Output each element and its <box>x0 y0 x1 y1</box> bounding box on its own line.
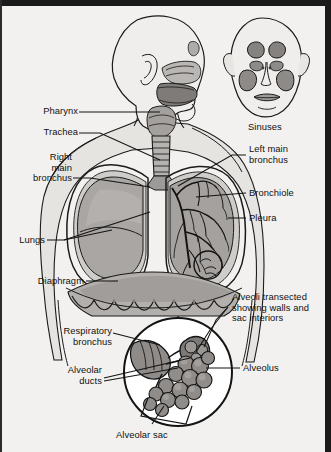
label-left-main-bronchus-line2: bronchus <box>249 155 329 166</box>
label-pharynx: Pharynx <box>0 106 78 117</box>
label-alveoli-transected: Alveoli transected showing walls and sac… <box>232 292 330 324</box>
label-left-main-bronchus-line1: Left main <box>249 144 329 155</box>
label-pleura: Pleura <box>249 213 309 224</box>
right-lung-group <box>78 177 143 279</box>
label-respiratory-bronchus: Respiratory bronchus <box>34 326 112 347</box>
frontal-head-group <box>223 18 309 117</box>
label-alveolar-ducts: Alveolar ducts <box>30 365 102 386</box>
label-right-main-bronchus-line3: bronchus <box>0 173 72 184</box>
frontal-sinus-profile <box>188 41 199 55</box>
profile-head-group <box>112 16 204 138</box>
maxillary-sinus-right <box>276 70 293 91</box>
label-alveoli-transected-line3: sac interiors <box>232 313 330 324</box>
label-trachea: Trachea <box>0 127 78 138</box>
label-left-main-bronchus: Left main bronchus <box>249 144 329 165</box>
label-right-main-bronchus-line1: Right <box>0 152 72 163</box>
label-respiratory-bronchus-line2: bronchus <box>34 337 112 348</box>
label-respiratory-bronchus-line1: Respiratory <box>34 326 112 337</box>
label-alveolus: Alveolus <box>243 363 313 374</box>
label-alveolar-sac: Alveolar sac <box>116 430 206 441</box>
frame-border-left <box>0 0 2 452</box>
respiratory-system-diagram: Pharynx Trachea Right main bronchus Lung… <box>0 0 331 452</box>
label-alveolar-ducts-line2: ducts <box>30 376 102 387</box>
frame-border-top <box>0 0 331 6</box>
label-lungs: Lungs <box>0 235 45 246</box>
frontal-sinus-left <box>247 42 264 58</box>
alveoli-inset-group <box>124 318 232 426</box>
ethmoid-sinus-right <box>270 61 283 71</box>
frame-border-right <box>325 0 331 452</box>
frontal-sinus-right <box>269 42 286 58</box>
maxillary-sinus-left <box>239 70 256 91</box>
label-right-main-bronchus: Right main bronchus <box>0 152 72 184</box>
nostril-left <box>262 67 265 70</box>
label-alveoli-transected-line1: Alveoli transected <box>232 292 330 303</box>
label-alveolar-ducts-line1: Alveolar <box>30 365 102 376</box>
ethmoid-sinus-left <box>250 61 263 71</box>
nostril-right <box>269 67 272 70</box>
label-bronchiole: Bronchiole <box>249 188 325 199</box>
label-diaphragm: Diaphragm <box>0 276 84 287</box>
label-sinuses: Sinuses <box>248 122 318 133</box>
